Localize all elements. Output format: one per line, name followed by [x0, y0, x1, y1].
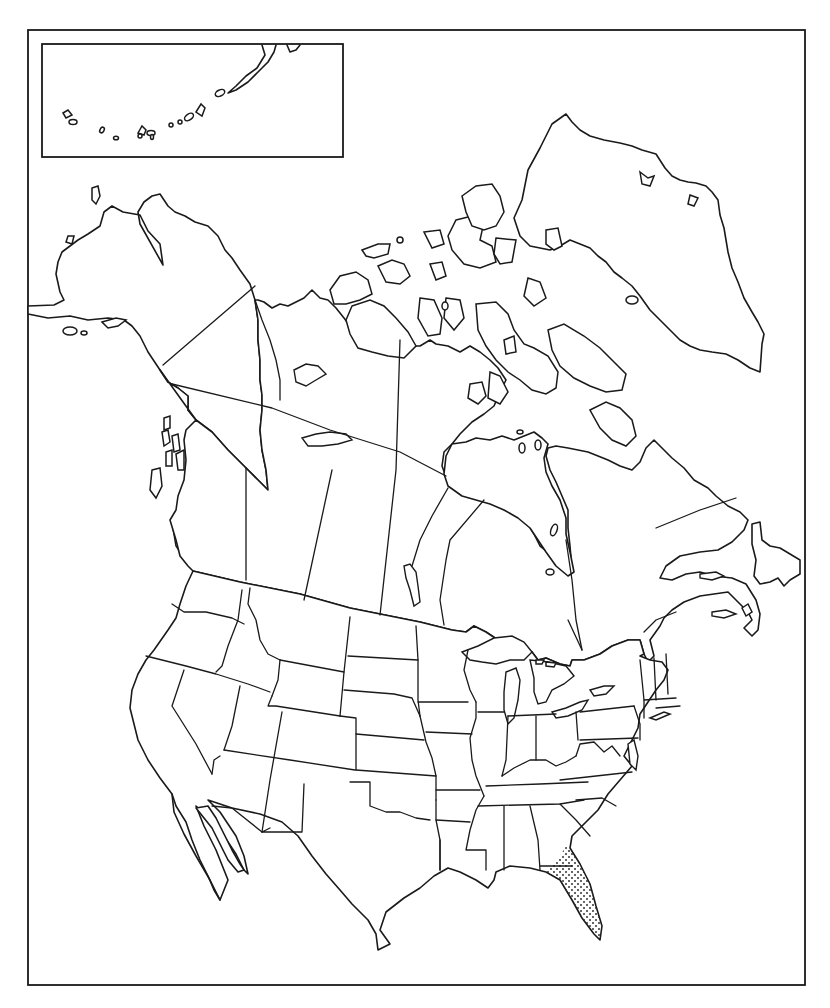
inset-islands: [63, 88, 226, 140]
inset-alaska-peninsula: [228, 45, 276, 93]
north-america-outline-map: [0, 0, 830, 1008]
newfoundland: [752, 522, 800, 586]
alaska: [28, 194, 268, 490]
inset-frame: [42, 44, 343, 157]
aleutian-inset: [42, 44, 343, 157]
